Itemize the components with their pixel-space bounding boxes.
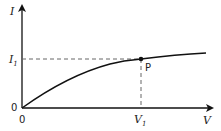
iv-curve xyxy=(22,53,206,108)
point-p-marker xyxy=(139,57,144,62)
i1-tick-label: I1 xyxy=(8,53,18,68)
point-p-label: P xyxy=(145,62,151,73)
x-axis-label: V xyxy=(203,114,212,127)
y-axis-label: I xyxy=(9,5,15,18)
origin-x-label: 0 xyxy=(19,114,25,125)
iv-chart: P I V I1 V1 0 0 xyxy=(0,0,221,131)
v1-tick-label: V1 xyxy=(134,113,146,128)
origin-y-label: 0 xyxy=(11,102,17,113)
